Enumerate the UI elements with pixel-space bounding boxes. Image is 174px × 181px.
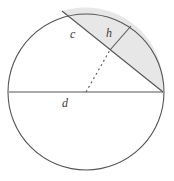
geometry-figure: c h d	[0, 0, 174, 181]
dashed-radius-line	[86, 50, 110, 92]
diameter-label: d	[62, 97, 68, 109]
circle-segment-diagram	[0, 0, 174, 181]
shaded-segment-region	[62, 7, 163, 92]
chord-label: c	[70, 28, 75, 40]
segment-height-label: h	[106, 27, 112, 39]
